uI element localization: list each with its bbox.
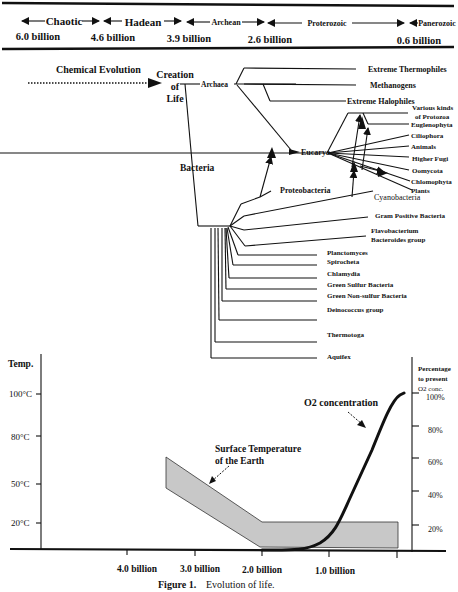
tick-2-0: 2.0 billion: [242, 565, 283, 575]
era-panerozoic: Panerozoic: [418, 19, 456, 28]
tick-80pct: 80%: [428, 426, 443, 435]
caption-text: Evolution of life.: [206, 579, 275, 590]
gram-positive-bacteria: Gram Positive Bacteria: [375, 212, 445, 220]
extreme-halophiles: Extreme Halophiles: [347, 97, 415, 106]
caption-prefix: Figure 1.: [158, 579, 197, 590]
tick-60pct: 60%: [428, 458, 443, 467]
creation-label-1: Creation: [156, 69, 194, 80]
o2-axis-label-1: Percentage: [418, 365, 451, 373]
o2-axis-label-3: O2 conc.: [418, 385, 444, 393]
animals: Animals: [411, 143, 436, 151]
surface-temp-label-1: Surface Temperature: [215, 444, 301, 454]
methanogens: Methanogens: [370, 81, 416, 90]
chlomophyta: Chlomophyta: [411, 178, 452, 186]
tick-4-0: 4.0 billion: [117, 564, 158, 574]
archaea-branches: [234, 68, 356, 150]
tick-50c: 50°C: [11, 479, 30, 489]
flavobacterium: Flavobacterium: [371, 227, 419, 235]
deinococcus-group: Deinococcus group: [327, 306, 384, 314]
boundary-2-6: 2.6 billion: [248, 34, 293, 45]
phylogenetic-tree: Chemical Evolution Creation of Life Arch…: [0, 64, 453, 361]
era-chaotic: Chaotic: [46, 15, 83, 27]
of-protozoa: of Protozoa: [415, 113, 450, 121]
era-hadean: Hadean: [125, 16, 162, 28]
top-rule: [2, 3, 454, 6]
figure-caption: Figure 1. Evolution of life.: [158, 579, 275, 590]
boundary-6-0: 6.0 billion: [16, 31, 61, 42]
extreme-thermophiles: Extreme Thermophiles: [368, 65, 447, 74]
higher-fugi: Higher Fugi: [412, 155, 448, 163]
oomycota: Oomycota: [412, 167, 443, 175]
era-proterozoic: Proterozoic: [307, 19, 347, 28]
proteobacteria: Proteobacteria: [280, 186, 331, 195]
tick-100c: 100°C: [9, 389, 32, 399]
spirocheta: Spirocheta: [327, 258, 360, 266]
temp-axis-label: Temp.: [8, 359, 33, 369]
tick-40pct: 40%: [428, 491, 443, 500]
tick-3-0: 3.0 billion: [180, 564, 221, 574]
geologic-timeline: Chaotic Hadean Archean Proterozoic Paner…: [2, 3, 456, 49]
aquifex: Aquifex: [327, 353, 351, 361]
time-axis: [10, 549, 446, 551]
surface-temp-label-2: of the Earth: [215, 456, 265, 466]
chlamydia: Chlamydia: [327, 270, 361, 278]
evolution-of-life-figure: Chaotic Hadean Archean Proterozoic Paner…: [0, 0, 458, 592]
temperature-oxygen-chart: Temp. 100°C 80°C 50°C 20°C Percentage to…: [8, 354, 451, 576]
boundary-3-9: 3.9 billion: [167, 33, 212, 44]
green-non-sulfur-bacteria: Green Non-sulfur Bacteria: [327, 292, 407, 300]
tick-80c: 80°C: [11, 432, 30, 442]
boundary-4-6: 4.6 billion: [91, 32, 136, 43]
bacteroides-group: Bacteroides group: [371, 236, 425, 244]
chemical-evolution-label: Chemical Evolution: [56, 64, 141, 75]
tick-20c: 20°C: [11, 518, 30, 528]
various-kinds: Various kinds: [412, 104, 453, 112]
eucarya-branches: [0, 113, 412, 190]
surface-temp-pointer: [212, 466, 229, 481]
era-archean: Archean: [211, 18, 241, 27]
archaea-label: Archaea: [201, 80, 228, 89]
tick-20pct: 20%: [428, 525, 443, 534]
bacteria-label: Bacteria: [180, 163, 215, 173]
cyanobacteria: Cyanobacteria: [374, 193, 421, 202]
boundary-0-6: 0.6 billion: [397, 35, 442, 46]
green-sulfur-bacteria: Green Sulfur Bacteria: [327, 281, 394, 289]
euglenophyta: Euglenophyta: [411, 121, 453, 129]
tick-1-0: 1.0 billion: [315, 566, 356, 576]
planctomyces: Planctomyces: [327, 249, 368, 257]
o2-concentration-label: O2 concentration: [304, 397, 379, 408]
thermotoga: Thermotoga: [327, 331, 364, 339]
bottom-rule: [2, 47, 454, 49]
creation-label-2: of: [171, 81, 180, 92]
tick-100pct: 100%: [426, 393, 445, 402]
creation-label-3: Life: [166, 93, 184, 104]
ciliophora: Ciliophora: [411, 132, 444, 140]
o2-axis-label-2: to present: [418, 375, 448, 383]
